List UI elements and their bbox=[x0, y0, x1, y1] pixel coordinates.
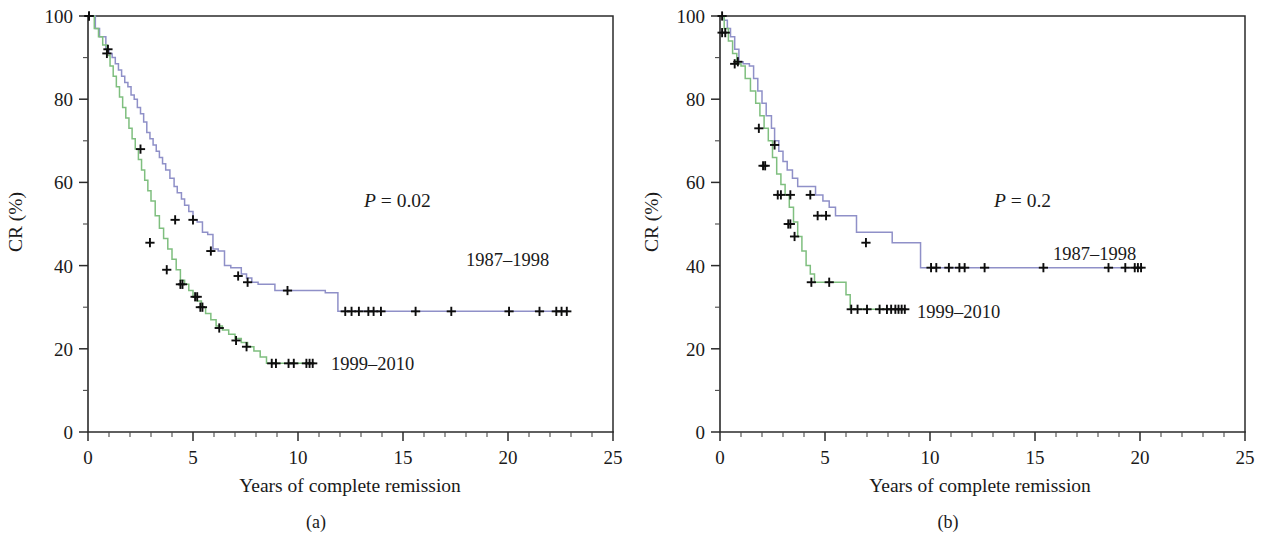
panel-b-svg: 0510152025020406080100 Years of complete… bbox=[632, 0, 1264, 537]
x-tick-label: 0 bbox=[83, 447, 93, 468]
y-tick-label: 40 bbox=[54, 256, 73, 277]
y-axis-title: CR (%) bbox=[5, 192, 27, 252]
y-tick-label: 60 bbox=[54, 172, 73, 193]
panel-a: 0510152025020406080100 Years of complete… bbox=[0, 0, 632, 537]
x-tick-label: 25 bbox=[1236, 447, 1255, 468]
y-tick-label: 100 bbox=[45, 6, 74, 27]
y-tick-label: 20 bbox=[686, 339, 705, 360]
panel-b-censors bbox=[718, 11, 1146, 313]
series-label-1999-2010: 1999–2010 bbox=[331, 354, 414, 374]
x-axis-title: Years of complete remission bbox=[869, 475, 1091, 496]
panel-b: 0510152025020406080100 Years of complete… bbox=[632, 0, 1264, 537]
p-value-label: P = 0.2 bbox=[993, 190, 1051, 211]
y-tick-label: 60 bbox=[686, 172, 705, 193]
x-axis-title: Years of complete remission bbox=[239, 475, 461, 496]
y-tick-label: 0 bbox=[696, 422, 706, 443]
y-tick-label: 80 bbox=[686, 89, 705, 110]
y-tick-label: 40 bbox=[686, 256, 705, 277]
panel-a-censors bbox=[84, 11, 571, 368]
plot-frame bbox=[720, 16, 1245, 432]
x-tick-label: 5 bbox=[820, 447, 830, 468]
y-axis-title: CR (%) bbox=[641, 192, 663, 252]
series-label-1987-1998: 1987–1998 bbox=[1053, 244, 1136, 264]
km-curve-1987–1998 bbox=[720, 16, 1142, 268]
x-tick-label: 10 bbox=[289, 447, 308, 468]
y-tick-label: 20 bbox=[54, 339, 73, 360]
panel-a-axes: 0510152025020406080100 bbox=[45, 6, 623, 468]
x-tick-label: 20 bbox=[1131, 447, 1150, 468]
series-label-1999-2010: 1999–2010 bbox=[917, 302, 1000, 322]
p-symbol: P bbox=[363, 190, 376, 211]
x-tick-label: 5 bbox=[188, 447, 198, 468]
km-figure: 0510152025020406080100 Years of complete… bbox=[0, 0, 1264, 537]
x-tick-label: 25 bbox=[604, 447, 623, 468]
x-tick-label: 15 bbox=[394, 447, 413, 468]
p-value-text: = 0.2 bbox=[1006, 190, 1051, 211]
p-value-text: = 0.02 bbox=[376, 190, 431, 211]
km-curve-1999–2010 bbox=[88, 16, 315, 363]
y-tick-label: 80 bbox=[54, 89, 73, 110]
x-tick-label: 0 bbox=[715, 447, 725, 468]
series-label-1987-1998: 1987–1998 bbox=[466, 250, 549, 270]
x-tick-label: 10 bbox=[921, 447, 940, 468]
panel-a-curves bbox=[88, 16, 569, 363]
x-tick-label: 20 bbox=[499, 447, 518, 468]
y-tick-label: 100 bbox=[677, 6, 706, 27]
panel-caption: (b) bbox=[938, 512, 959, 533]
p-symbol: P bbox=[993, 190, 1006, 211]
y-tick-label: 0 bbox=[64, 422, 74, 443]
p-value-label: P = 0.02 bbox=[363, 190, 431, 211]
panel-caption: (a) bbox=[306, 512, 326, 533]
axis-lines bbox=[720, 16, 1245, 432]
panel-b-axes: 0510152025020406080100 bbox=[677, 6, 1255, 468]
x-tick-label: 15 bbox=[1026, 447, 1045, 468]
panel-a-svg: 0510152025020406080100 Years of complete… bbox=[0, 0, 632, 537]
km-curve-1999–2010 bbox=[720, 16, 905, 309]
